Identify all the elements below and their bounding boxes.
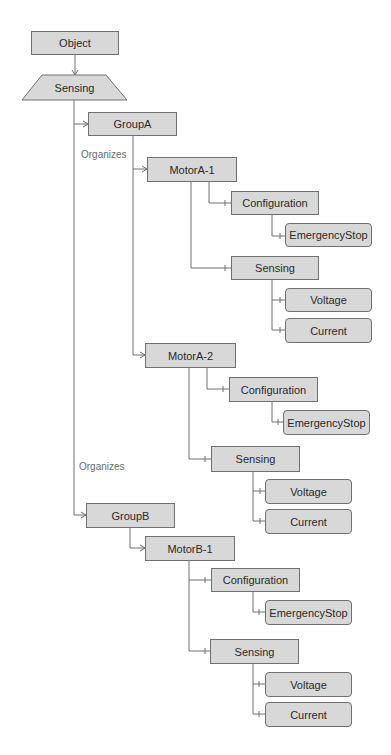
emergencystop-label: EmergencyStop: [269, 607, 347, 619]
motor-a1-configuration-node: Configuration: [231, 191, 319, 215]
motor-b1-voltage-node: Voltage: [265, 672, 352, 697]
motor-b1-label: MotorB-1: [167, 543, 212, 555]
motor-a2-node: MotorA-2: [145, 343, 236, 368]
motor-a2-current-node: Current: [265, 509, 352, 534]
motor-a1-emergencystop-node: EmergencyStop: [285, 223, 372, 247]
motor-b1-configuration-node: Configuration: [211, 568, 300, 592]
motor-a2-sensing-node: Sensing: [211, 446, 300, 472]
motor-a1-current-node: Current: [285, 318, 372, 343]
configuration-label: Configuration: [241, 384, 306, 396]
motor-a1-node: MotorA-1: [147, 157, 237, 182]
sensing-label: Sensing: [235, 646, 275, 658]
motor-a2-emergencystop-node: EmergencyStop: [283, 410, 370, 435]
configuration-label: Configuration: [223, 574, 288, 586]
motor-a2-label: MotorA-2: [168, 350, 213, 362]
organizes-label-1: Organizes: [81, 149, 127, 160]
connector-lines: [0, 0, 391, 755]
sensing-root-label: Sensing: [55, 82, 95, 94]
current-label: Current: [290, 516, 327, 528]
sensing-root-node: Sensing: [22, 75, 127, 100]
sensing-label: Sensing: [255, 262, 295, 274]
emergencystop-label: EmergencyStop: [289, 229, 367, 241]
group-b-node: GroupB: [86, 503, 175, 528]
motor-a2-configuration-node: Configuration: [229, 377, 318, 402]
object-label: Object: [59, 37, 91, 49]
object-node: Object: [31, 31, 119, 55]
emergencystop-label: EmergencyStop: [287, 417, 365, 429]
motor-b1-emergencystop-node: EmergencyStop: [265, 600, 352, 625]
current-label: Current: [310, 325, 347, 337]
motor-b1-current-node: Current: [265, 702, 352, 727]
motor-a2-voltage-node: Voltage: [265, 479, 352, 504]
motor-a1-voltage-node: Voltage: [285, 288, 372, 312]
motor-b1-node: MotorB-1: [145, 536, 235, 561]
voltage-label: Voltage: [290, 486, 327, 498]
organizes-label-2: Organizes: [79, 461, 125, 472]
sensing-label: Sensing: [236, 453, 276, 465]
group-a-label: GroupA: [114, 118, 152, 130]
group-a-node: GroupA: [88, 112, 177, 136]
motor-a1-label: MotorA-1: [169, 164, 214, 176]
motor-a1-sensing-node: Sensing: [231, 256, 319, 280]
group-b-label: GroupB: [112, 510, 150, 522]
voltage-label: Voltage: [310, 294, 347, 306]
current-label: Current: [290, 709, 327, 721]
voltage-label: Voltage: [290, 679, 327, 691]
motor-b1-sensing-node: Sensing: [210, 639, 299, 664]
configuration-label: Configuration: [242, 197, 307, 209]
